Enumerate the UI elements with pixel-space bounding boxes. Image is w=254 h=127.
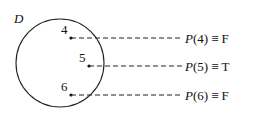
- statement-label: P(4)≡F: [184, 31, 229, 46]
- element-label: 4: [61, 22, 68, 37]
- element-label: 6: [61, 79, 68, 94]
- set-label: D: [13, 11, 24, 26]
- set-circle: [16, 19, 104, 107]
- statement-label: P(6)≡F: [184, 88, 229, 103]
- element-row-5: 5 P(5)≡T: [79, 50, 229, 74]
- element-label: 5: [79, 50, 86, 65]
- element-row-6: 6 P(6)≡F: [61, 79, 229, 103]
- element-row-4: 4 P(4)≡F: [61, 22, 229, 46]
- statement-label: P(5)≡T: [184, 59, 229, 74]
- set-diagram: D 4 P(4)≡F 5 P(5)≡T 6 P(6)≡F: [0, 0, 254, 127]
